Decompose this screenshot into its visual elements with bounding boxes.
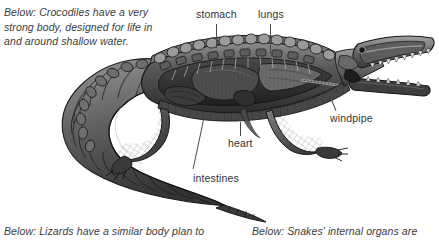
lower-jaw: [349, 78, 430, 96]
organ-lungs: [259, 63, 322, 91]
label-windpipe: windpipe: [330, 112, 373, 124]
leader-line-windpipe: [325, 85, 336, 111]
tail-tip: [216, 205, 266, 222]
label-heart: heart: [228, 137, 253, 149]
label-lungs: lungs: [258, 8, 284, 20]
organ-stomach: [192, 65, 259, 100]
organ-intestines: [165, 86, 206, 105]
caption-lizards: Below: Lizards have a similar body plan …: [4, 224, 229, 239]
leader-line-lungs: [270, 24, 271, 54]
leader-line-heart: [240, 122, 241, 136]
label-intestines: intestines: [193, 172, 239, 184]
head-group: [335, 36, 434, 96]
organ-windpipe: [300, 80, 344, 86]
fore-leg-far: [240, 108, 260, 138]
hind-leg: [106, 108, 170, 180]
figure-page: stomach lungs windpipe heart intestines …: [0, 0, 439, 242]
leader-line-intestines: [193, 120, 204, 169]
torso-group: [142, 43, 350, 122]
upper-jaw: [353, 36, 434, 68]
caption-snakes: Below: Snakes' internal organs are: [252, 224, 439, 239]
organ-heart: [234, 90, 256, 106]
caption-crocodiles: Below: Crocodiles have a very strong bod…: [4, 5, 219, 49]
